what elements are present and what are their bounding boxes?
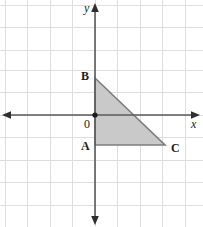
y-axis-label: y [84, 2, 89, 14]
vertex-label-a: A [81, 140, 90, 152]
y-axis-arrow-up [91, 3, 99, 12]
vertex-label-c: C [171, 142, 180, 154]
x-axis-label: x [191, 118, 196, 130]
y-axis-arrow-down [91, 216, 99, 225]
x-axis-arrow-left [2, 111, 11, 119]
vertex-label-b: B [81, 70, 89, 82]
origin-label: 0 [84, 118, 90, 130]
coordinate-plane-figure: B A C 0 y x [0, 0, 203, 227]
origin-dot [92, 112, 97, 117]
triangle-ABC [95, 78, 165, 145]
